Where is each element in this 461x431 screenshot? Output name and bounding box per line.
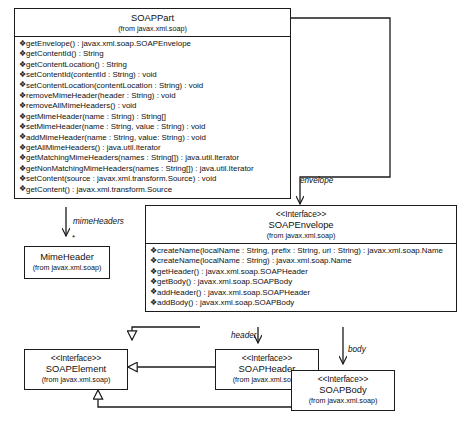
class-package-soapelement: (from javax.xml.soap) bbox=[27, 375, 125, 384]
visibility-marker-icon: ❖ bbox=[149, 246, 157, 256]
class-method-signature: createName(localName : String) : javax.x… bbox=[157, 256, 352, 266]
member-list-soappart: ❖getEnvelope() : javax.xml.soap.SOAPEnve… bbox=[15, 37, 290, 199]
class-method-signature: getMimeHeader(name : String) : String[] bbox=[26, 112, 166, 122]
visibility-marker-icon: ❖ bbox=[149, 298, 157, 308]
class-method-row: ❖createName(localName : String) : javax.… bbox=[146, 256, 456, 266]
visibility-marker-icon: ❖ bbox=[18, 80, 26, 90]
class-method-row: ❖getContent() : javax.xml.transform.Sour… bbox=[15, 185, 290, 195]
class-method-row: ❖getContentId() : String bbox=[15, 49, 290, 59]
visibility-marker-icon: ❖ bbox=[18, 174, 26, 184]
class-method-signature: createName(localName : String, prefix : … bbox=[157, 246, 443, 256]
class-method-row: ❖getNonMatchingMimeHeaders(names : Strin… bbox=[15, 164, 290, 174]
class-method-signature: getMatchingMimeHeaders(names : String[])… bbox=[26, 153, 239, 163]
class-method-signature: getEnvelope() : javax.xml.soap.SOAPEnvel… bbox=[26, 39, 191, 49]
class-package-soapenvelope: (from javax.xml.soap) bbox=[148, 231, 454, 240]
class-name-mimeheader: MimeHeader bbox=[27, 251, 107, 263]
class-stereotype-soapenvelope: <<Interface>> bbox=[148, 209, 454, 219]
class-method-signature: getContentId() : String bbox=[26, 49, 104, 59]
edge-label-mimeheaders: mimeHeaders bbox=[73, 217, 124, 226]
visibility-marker-icon: ❖ bbox=[18, 184, 26, 194]
class-method-row: ❖getContentLocation() : String bbox=[15, 60, 290, 70]
class-method-signature: getAllMimeHeaders() : java.util.Iterator bbox=[26, 143, 161, 153]
member-list-soapenvelope: ❖createName(localName : String, prefix :… bbox=[146, 244, 456, 312]
edge-label-header: header bbox=[231, 331, 257, 340]
class-method-signature: getContentLocation() : String bbox=[26, 60, 127, 70]
uml-class-diagram: SOAPPart (from javax.xml.soap) ❖getEnvel… bbox=[0, 0, 461, 431]
class-header-soapenvelope: <<Interface>> SOAPEnvelope (from javax.x… bbox=[146, 206, 456, 244]
visibility-marker-icon: ❖ bbox=[18, 49, 26, 59]
class-method-row: ❖setContent(source : javax.xml.transform… bbox=[15, 174, 290, 184]
class-package-soapbody: (from javax.xml.soap) bbox=[294, 396, 392, 405]
class-method-signature: removeAllMimeHeaders() : void bbox=[26, 101, 137, 111]
class-name-soappart: SOAPPart bbox=[17, 12, 288, 24]
edge-multiplicity-mimeheaders: * bbox=[72, 233, 75, 242]
class-method-signature: getHeader() : javax.xml.soap.SOAPHeader bbox=[157, 267, 308, 277]
class-method-row: ❖addMimeHeader(name : String, value: Str… bbox=[15, 133, 290, 143]
visibility-marker-icon: ❖ bbox=[18, 70, 26, 80]
visibility-marker-icon: ❖ bbox=[149, 287, 157, 297]
visibility-marker-icon: ❖ bbox=[149, 277, 157, 287]
class-stereotype-soapheader: <<Interface>> bbox=[218, 353, 316, 363]
visibility-marker-icon: ❖ bbox=[18, 122, 26, 132]
visibility-marker-icon: ❖ bbox=[18, 164, 26, 174]
class-method-row: ❖createName(localName : String, prefix :… bbox=[146, 246, 456, 256]
class-method-row: ❖setContentLocation(contentLocation : St… bbox=[15, 81, 290, 91]
class-method-row: ❖getEnvelope() : javax.xml.soap.SOAPEnve… bbox=[15, 39, 290, 49]
class-method-row: ❖addHeader() : javax.xml.soap.SOAPHeader bbox=[146, 288, 456, 298]
class-package-soappart: (from javax.xml.soap) bbox=[17, 24, 288, 33]
class-method-signature: setContentLocation(contentLocation : Str… bbox=[26, 81, 203, 91]
visibility-marker-icon: ❖ bbox=[18, 143, 26, 153]
class-method-row: ❖removeMimeHeader(header : String) : voi… bbox=[15, 91, 290, 101]
class-method-row: ❖getMatchingMimeHeaders(names : String[]… bbox=[15, 153, 290, 163]
class-method-signature: addHeader() : javax.xml.soap.SOAPHeader bbox=[157, 288, 310, 298]
class-method-signature: getNonMatchingMimeHeaders(names : String… bbox=[26, 164, 254, 174]
class-package-mimeheader: (from javax.xml.soap) bbox=[27, 263, 107, 272]
class-stereotype-soapbody: <<Interface>> bbox=[294, 374, 392, 384]
class-box-soappart: SOAPPart (from javax.xml.soap) ❖getEnvel… bbox=[14, 8, 291, 199]
class-name-soapenvelope: SOAPEnvelope bbox=[148, 219, 454, 231]
visibility-marker-icon: ❖ bbox=[149, 256, 157, 266]
class-method-signature: setContentId(contentId : String) : void bbox=[26, 70, 157, 80]
class-method-row: ❖getHeader() : javax.xml.soap.SOAPHeader bbox=[146, 267, 456, 277]
class-stereotype-soapelement: <<Interface>> bbox=[27, 353, 125, 363]
visibility-marker-icon: ❖ bbox=[18, 91, 26, 101]
visibility-marker-icon: ❖ bbox=[18, 132, 26, 142]
class-method-row: ❖getAllMimeHeaders() : java.util.Iterato… bbox=[15, 143, 290, 153]
class-method-row: ❖setContentId(contentId : String) : void bbox=[15, 70, 290, 80]
class-name-soapbody: SOAPBody bbox=[294, 384, 392, 396]
visibility-marker-icon: ❖ bbox=[18, 60, 26, 70]
class-method-signature: addBody() : javax.xml.soap.SOAPBody bbox=[157, 298, 294, 308]
class-method-row: ❖getMimeHeader(name : String) : String[] bbox=[15, 112, 290, 122]
class-method-row: ❖setMimeHeader(name : String, value : St… bbox=[15, 122, 290, 132]
class-header-soapbody: <<Interface>> SOAPBody (from javax.xml.s… bbox=[292, 371, 394, 408]
class-method-row: ❖removeAllMimeHeaders() : void bbox=[15, 101, 290, 111]
class-box-soapelement: <<Interface>> SOAPElement (from javax.xm… bbox=[24, 349, 128, 390]
visibility-marker-icon: ❖ bbox=[18, 153, 26, 163]
class-header-mimeheader: MimeHeader (from javax.xml.soap) bbox=[25, 247, 109, 275]
class-header-soapelement: <<Interface>> SOAPElement (from javax.xm… bbox=[25, 350, 127, 387]
class-method-signature: removeMimeHeader(header : String) : void bbox=[26, 91, 176, 101]
visibility-marker-icon: ❖ bbox=[18, 101, 26, 111]
class-method-signature: setContent(source : javax.xml.transform.… bbox=[26, 174, 216, 184]
class-box-soapenvelope: <<Interface>> SOAPEnvelope (from javax.x… bbox=[145, 205, 457, 312]
class-method-signature: addMimeHeader(name : String, value: Stri… bbox=[26, 133, 206, 143]
edge-label-body: body bbox=[348, 345, 366, 354]
class-header-soappart: SOAPPart (from javax.xml.soap) bbox=[15, 9, 290, 37]
edge-label-envelope: envelope bbox=[300, 176, 333, 185]
visibility-marker-icon: ❖ bbox=[18, 112, 26, 122]
visibility-marker-icon: ❖ bbox=[18, 39, 26, 49]
class-box-soapbody: <<Interface>> SOAPBody (from javax.xml.s… bbox=[291, 370, 395, 411]
class-method-signature: setMimeHeader(name : String, value : Str… bbox=[26, 122, 205, 132]
class-method-signature: getContent() : javax.xml.transform.Sourc… bbox=[26, 185, 172, 195]
class-method-row: ❖addBody() : javax.xml.soap.SOAPBody bbox=[146, 298, 456, 308]
class-name-soapelement: SOAPElement bbox=[27, 363, 125, 375]
class-method-signature: getBody() : javax.xml.soap.SOAPBody bbox=[157, 277, 292, 287]
class-box-mimeheader: MimeHeader (from javax.xml.soap) bbox=[24, 246, 110, 279]
class-method-row: ❖getBody() : javax.xml.soap.SOAPBody bbox=[146, 277, 456, 287]
visibility-marker-icon: ❖ bbox=[149, 267, 157, 277]
